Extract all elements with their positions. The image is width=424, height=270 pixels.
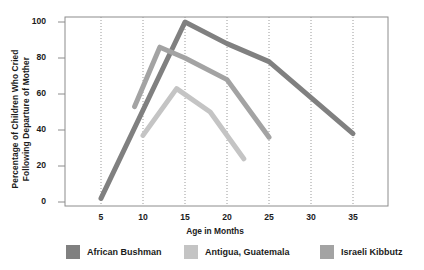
series-line-antigua-guatemala (143, 89, 244, 159)
legend-swatch-israeli-kibbutz (320, 245, 334, 259)
legend-swatch-antigua-guatemala (184, 245, 198, 259)
legend-label-israeli-kibbutz: Israeli Kibbutz (341, 247, 403, 257)
legend-item-antigua-guatemala: Antigua, Guatemala (184, 245, 290, 259)
legend-label-african-bushman: African Bushman (87, 247, 162, 257)
legend-item-israeli-kibbutz: Israeli Kibbutz (320, 245, 403, 259)
legend-label-antigua-guatemala: Antigua, Guatemala (205, 247, 290, 257)
legend-item-african-bushman: African Bushman (66, 245, 162, 259)
y-tick-marks (58, 22, 65, 202)
chart-figure: Percentage of Children Who Cried Followi… (0, 0, 424, 270)
plot-area (0, 0, 424, 270)
chart-legend: African Bushman Antigua, Guatemala Israe… (0, 243, 424, 265)
legend-swatch-african-bushman (66, 245, 80, 259)
series-line-israeli-kibbutz (135, 47, 269, 137)
